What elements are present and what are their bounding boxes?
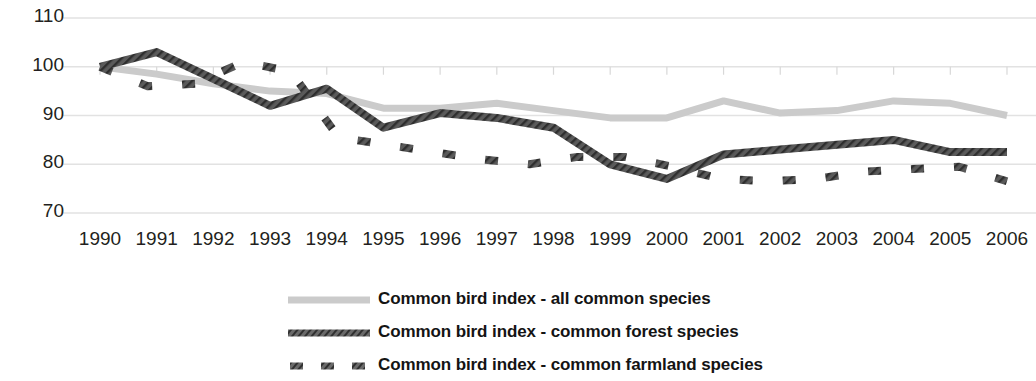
legend-label-forest: Common bird index - common forest specie… — [378, 322, 739, 342]
y-tick-90: 90 — [0, 103, 64, 125]
legend-swatch-hatched-dark-gray-line — [288, 324, 370, 340]
plot-area: 110 100 90 80 70 — [0, 0, 1036, 230]
y-tick-70: 70 — [0, 200, 64, 222]
legend-label-farmland: Common bird index - common farmland spec… — [378, 355, 763, 375]
bird-index-chart: 110 100 90 80 70 1990 1991 1992 1993 199… — [0, 0, 1036, 381]
plot-svg — [0, 0, 1036, 230]
x-axis-labels: 1990 1991 1992 1993 1994 1995 1996 1997 … — [0, 228, 1036, 262]
legend-item-all-common: Common bird index - all common species — [288, 282, 711, 315]
legend-item-forest: Common bird index - common forest specie… — [288, 315, 739, 348]
legend-swatch-solid-light-gray-line — [288, 291, 370, 307]
chart-legend: Common bird index - all common species C… — [0, 282, 1036, 381]
y-tick-100: 100 — [0, 54, 64, 76]
axis-tick-marks — [100, 67, 1007, 75]
series-line-2 — [100, 62, 1007, 181]
y-axis-labels: 110 100 90 80 70 — [0, 0, 72, 230]
y-tick-110: 110 — [0, 5, 64, 27]
legend-item-farmland: Common bird index - common farmland spec… — [288, 348, 763, 381]
gridlines — [62, 18, 1036, 213]
x-tick-2006: 2006 — [972, 228, 1036, 250]
legend-label-all-common: Common bird index - all common species — [378, 289, 711, 309]
y-tick-80: 80 — [0, 151, 64, 173]
legend-swatch-dashed-dark-gray-line — [288, 357, 370, 373]
